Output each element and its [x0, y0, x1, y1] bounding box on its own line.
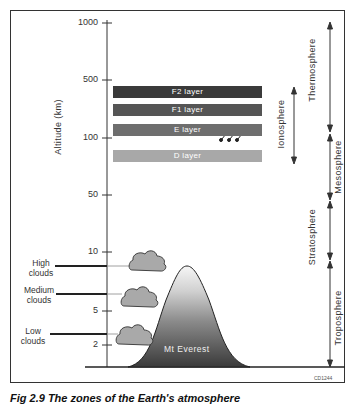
cloud-label-medium-line2: clouds — [18, 295, 60, 305]
zone-arrows — [328, 22, 333, 367]
cloud-label-high: High clouds — [24, 258, 58, 278]
ionosphere-label: Ionosphere — [276, 89, 286, 159]
altitude-axis — [102, 20, 112, 367]
layer-e: E layer — [113, 124, 262, 136]
layer-d: D layer — [113, 150, 262, 162]
cloud-label-low: Low clouds — [16, 326, 50, 346]
zone-label-mesosphere: Mesosphere — [333, 127, 343, 207]
tick-label-50: 50 — [68, 189, 98, 199]
tick-label-2: 2 — [68, 339, 98, 349]
cloud-pointers — [50, 266, 130, 334]
zone-label-thermosphere: Thermosphere — [307, 30, 317, 110]
mt-everest-label: Mt Everest — [164, 344, 210, 354]
cloud-low-icon — [116, 325, 153, 345]
cloud-label-high-line1: High — [24, 258, 58, 268]
cloud-label-medium-line1: Medium — [18, 285, 60, 295]
layer-f1: F1 layer — [113, 104, 262, 116]
y-axis-label: Altitude (km) — [53, 87, 63, 167]
cloud-label-medium: Medium clouds — [18, 285, 60, 305]
tick-label-1000: 1000 — [68, 17, 98, 27]
tick-label-500: 500 — [68, 74, 98, 84]
figure-caption: Fig 2.9 The zones of the Earth's atmosph… — [10, 392, 240, 404]
tick-label-5: 5 — [68, 305, 98, 315]
cloud-label-low-line2: clouds — [16, 336, 50, 346]
cloud-medium-icon — [121, 287, 158, 307]
zone-label-stratosphere: Stratosphere — [307, 197, 317, 277]
ionosphere-arrow — [292, 87, 297, 164]
cloud-label-high-line2: clouds — [24, 268, 58, 278]
tick-label-100: 100 — [68, 132, 98, 142]
cloud-high-icon — [129, 251, 166, 271]
layer-f2: F2 layer — [113, 86, 262, 98]
tick-label-10: 10 — [68, 246, 98, 256]
figure-code: CD1244 — [314, 375, 332, 381]
zone-label-troposphere: Troposphere — [333, 278, 343, 358]
cloud-label-low-line1: Low — [16, 326, 50, 336]
